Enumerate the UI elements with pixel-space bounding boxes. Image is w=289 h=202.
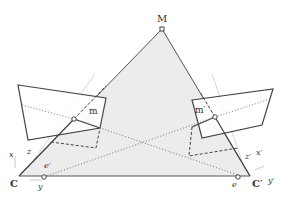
point-M: [160, 27, 164, 31]
label-axis-x: x: [9, 150, 14, 159]
axis-right-y-arrow: [255, 166, 264, 170]
epipolar-geometry-diagram: M m m′ C C′ e′ e x z y z′ x′ y′: [0, 0, 289, 202]
label-C: C: [10, 178, 18, 189]
point-m-prime: [213, 115, 217, 119]
label-axis-z-prime: z′: [244, 152, 251, 161]
label-axis-x-prime: x′: [256, 148, 263, 157]
label-M: M: [157, 13, 167, 24]
point-e: [42, 175, 46, 179]
label-axis-y-prime: y′: [267, 176, 275, 185]
label-C-prime: C′: [252, 178, 263, 189]
label-axis-z: z: [26, 147, 32, 156]
point-e-prime: [236, 175, 240, 179]
label-m: m: [89, 106, 98, 116]
label-axis-y: y: [37, 182, 43, 191]
label-e-prime: e′: [44, 161, 51, 170]
point-m: [72, 117, 76, 121]
label-m-prime: m′: [195, 105, 206, 115]
label-e: e: [232, 180, 237, 189]
